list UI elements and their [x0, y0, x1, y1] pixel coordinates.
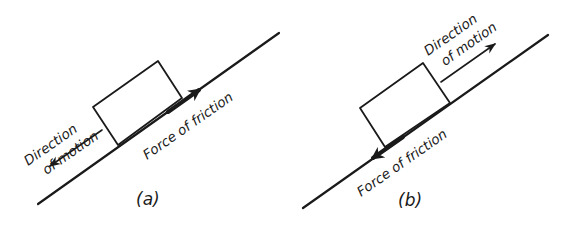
inclined-plane-a: [38, 33, 279, 204]
panel-b: Direction of motion Force of friction (b…: [303, 4, 548, 210]
panel-a: Direction of motion Force of friction (a…: [21, 33, 279, 209]
panel-label-b: (b): [398, 190, 422, 210]
friction-diagram: Direction of motion Force of friction (a…: [0, 0, 566, 225]
inclined-plane-b: [303, 35, 548, 208]
panel-label-a: (a): [136, 189, 160, 209]
friction-arrow-a: [168, 90, 199, 112]
